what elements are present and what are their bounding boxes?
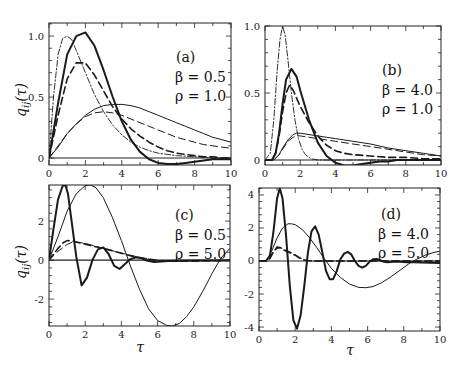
y-tick-label: 0 <box>254 155 260 166</box>
panel-b-label: (b) <box>382 62 402 78</box>
panel-d-label: (d) <box>381 206 401 222</box>
x-tick-label: 10 <box>434 334 447 345</box>
x-tick-label: 8 <box>191 168 197 179</box>
x-tick-label: 4 <box>332 168 338 179</box>
y-tick-label: -4 <box>244 322 254 333</box>
y-tick-label: 1.0 <box>244 21 260 32</box>
y-tick-label: 1.0 <box>28 31 44 42</box>
panel-d-rho: ρ = 5.0 <box>378 245 429 261</box>
x-tick-label: 8 <box>191 329 197 340</box>
panel-c-rho: ρ = 5.0 <box>175 246 226 262</box>
panel-a-beta: β = 0.5 <box>175 69 226 85</box>
y-axis-label-top: qij(τ) <box>13 83 31 117</box>
y-tick-label: 0.5 <box>28 92 44 103</box>
x-tick-label: 0 <box>46 168 52 179</box>
x-tick-label: 2 <box>82 329 88 340</box>
panel-a-label: (a) <box>176 49 195 65</box>
x-tick-label: 0 <box>256 334 262 345</box>
y-tick-label: 4 <box>248 189 254 200</box>
series-thin-solid <box>265 133 441 160</box>
panel-b: 024681000.51.0 <box>244 21 447 180</box>
figure-four-panel-plot: 024681000.51.0 024681000.51.0 0246810-20… <box>0 0 464 375</box>
panel-d: 0246810-4-2024 <box>244 188 446 345</box>
y-tick-label: -2 <box>34 294 44 305</box>
y-tick-label: 0 <box>248 255 254 266</box>
x-axis-label-d: τ <box>346 342 354 358</box>
svg-text:qij(τ): qij(τ) <box>13 83 31 117</box>
x-tick-label: 6 <box>154 329 160 340</box>
x-tick-label: 8 <box>403 168 409 179</box>
x-tick-label: 10 <box>225 168 238 179</box>
panel-b-beta: β = 4.0 <box>382 82 433 98</box>
svg-text:qij(τ): qij(τ) <box>13 245 31 279</box>
y-tick-label: 0 <box>38 153 44 164</box>
x-axis-label-c: τ <box>136 339 144 355</box>
x-tick-label: 0 <box>46 329 52 340</box>
panel-c-beta: β = 0.5 <box>175 227 226 243</box>
x-tick-label: 6 <box>364 334 370 345</box>
x-tick-label: 10 <box>224 329 237 340</box>
x-tick-label: 4 <box>118 329 124 340</box>
y-tick-label: 2 <box>38 216 44 227</box>
x-tick-label: 4 <box>119 168 125 179</box>
y-tick-label: -2 <box>244 289 254 300</box>
panel-b-rho: ρ = 1.0 <box>382 101 433 117</box>
x-tick-label: 2 <box>297 168 303 179</box>
x-tick-label: 6 <box>367 168 373 179</box>
series-thin-solid <box>49 104 231 158</box>
x-tick-label: 8 <box>401 334 407 345</box>
panel-a-rho: ρ = 1.0 <box>175 88 226 104</box>
x-tick-label: 2 <box>82 168 88 179</box>
x-tick-label: 10 <box>435 168 448 179</box>
series-thin-dashed <box>265 136 441 160</box>
y-axis-label-bottom: qij(τ) <box>13 245 31 279</box>
x-tick-label: 0 <box>262 168 268 179</box>
panel-c: 0246810-202 <box>34 185 236 340</box>
x-tick-label: 6 <box>155 168 161 179</box>
x-tick-label: 2 <box>292 334 298 345</box>
panel-c-label: (c) <box>175 207 194 223</box>
panel-d-beta: β = 4.0 <box>378 226 429 242</box>
y-tick-label: 0.5 <box>244 88 260 99</box>
y-tick-label: 2 <box>248 222 254 233</box>
x-tick-label: 4 <box>328 334 334 345</box>
y-tick-label: 0 <box>38 255 44 266</box>
